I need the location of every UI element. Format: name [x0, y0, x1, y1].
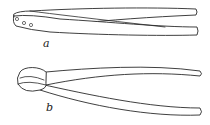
tool-b-lower-arm — [40, 84, 202, 115]
tool-a-drawing — [13, 8, 198, 35]
figure: a b — [0, 0, 210, 125]
rivet-hole-2 — [22, 21, 25, 24]
label-a: a — [43, 38, 50, 49]
tool-b-upper-arm — [46, 67, 202, 85]
rivet-hole-3 — [29, 23, 32, 26]
tool-b-drawing — [17, 67, 201, 115]
label-b: b — [46, 102, 53, 113]
drawing-canvas — [0, 0, 210, 125]
rivet-hole-1 — [15, 17, 18, 20]
